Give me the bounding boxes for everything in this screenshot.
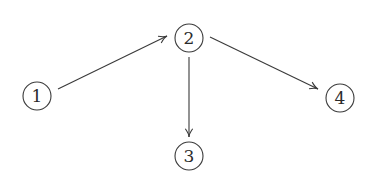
node-4: 4 xyxy=(326,84,354,112)
edge-2-to-3 xyxy=(185,57,192,137)
node-label: 2 xyxy=(184,28,195,48)
node-3: 3 xyxy=(175,142,203,170)
node-1: 1 xyxy=(23,82,51,110)
graph-diagram: 1234 xyxy=(0,0,375,187)
edge-line xyxy=(210,37,318,89)
node-2: 2 xyxy=(175,24,203,52)
node-label: 3 xyxy=(184,146,195,166)
edge-line xyxy=(58,36,167,89)
edge-2-to-4 xyxy=(210,37,318,89)
node-label: 4 xyxy=(335,88,346,108)
node-label: 1 xyxy=(32,86,43,106)
edge-1-to-2 xyxy=(58,36,167,89)
